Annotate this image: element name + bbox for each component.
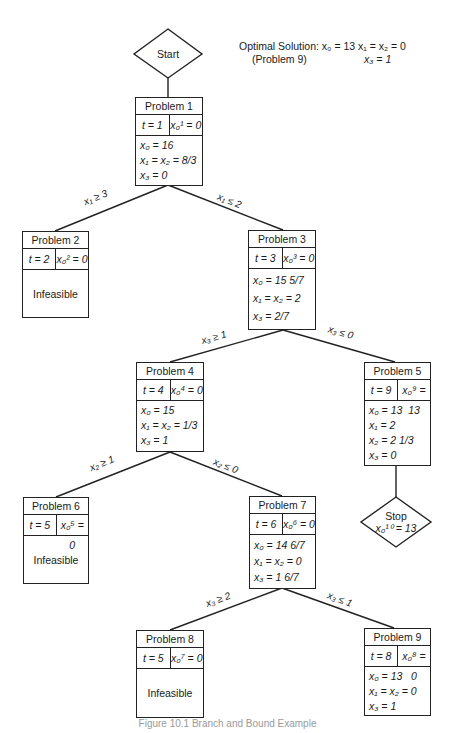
solution-line: x₃ = 2/7 xyxy=(253,307,311,325)
iteration: t = 6 xyxy=(250,514,283,534)
stop-value: x₀¹⁰ = 13 xyxy=(366,522,426,534)
iteration: t = 2 xyxy=(23,249,56,269)
problem-title: Problem 1 xyxy=(136,98,202,115)
start-label: Start xyxy=(138,48,198,60)
solution-line: x₀ = 13 xyxy=(369,669,426,684)
solution-line: x₀ = 16 xyxy=(140,138,198,153)
solution-line: x₃ = 0 xyxy=(369,448,426,463)
optimal-solution-x3: x₃ = 1 xyxy=(364,53,391,65)
bound: x₀² = 0 xyxy=(56,249,88,269)
problem-7-node: Problem 7 t = 6x₀⁶ = 0 x₀ = 14 6/7 x₁ = … xyxy=(249,496,316,589)
stop-label: Stop x₀¹⁰ = 13 xyxy=(366,510,426,534)
bound: x₀⁴ = 0 xyxy=(171,380,204,400)
solution-line: x₃ = 1 xyxy=(369,699,426,714)
infeasible-label: Infeasible xyxy=(23,270,88,300)
solution-line: x₂ = 2 1/3 xyxy=(369,433,426,448)
iteration: t = 4 xyxy=(137,380,171,400)
solution-line: x₀ = 15 xyxy=(141,403,199,418)
iteration: t = 8 xyxy=(365,646,398,666)
bound: x₀¹ = 0 xyxy=(170,115,203,135)
iteration: t = 9 xyxy=(365,380,398,400)
bound: x₀⁸ = 0 xyxy=(398,646,430,666)
problem-title: Problem 2 xyxy=(23,232,88,249)
bound: x₀⁷ = 0 xyxy=(171,648,204,668)
iteration: t = 5 xyxy=(24,515,57,535)
problem-3-node: Problem 3 t = 3x₀³ = 0 x₀ = 15 5/7 x₁ = … xyxy=(248,230,316,330)
solution-line: x₃ = 0 xyxy=(140,168,198,183)
solution-line: x₁ = x₂ = 8/3 xyxy=(140,153,198,168)
infeasible-label: Infeasible xyxy=(24,536,88,566)
solution-line: x₁ = x₂ = 2 xyxy=(253,289,311,307)
optimal-solution-line1: Optimal Solution: x₀ = 13 x₁ = x₂ = 0 xyxy=(239,40,406,52)
stop-title: Stop xyxy=(366,510,426,522)
iteration: t = 5 xyxy=(137,648,171,668)
problem-6-node: Problem 6 t = 5x₀⁵ = 0 Infeasible xyxy=(23,497,89,584)
figure-caption: Figure 10.1 Branch and Bound Example xyxy=(0,718,455,729)
problem-title: Problem 3 xyxy=(249,231,315,248)
solution-line: x₁ = x₂ = 0 xyxy=(369,684,426,699)
problem-2-node: Problem 2 t = 2x₀² = 0 Infeasible xyxy=(22,231,89,318)
problem-title: Problem 9 xyxy=(365,629,430,646)
problem-1-node: Problem 1 t = 1x₀¹ = 0 x₀ = 16 x₁ = x₂ =… xyxy=(135,97,203,186)
solution-line: x₃ = 1 6/7 xyxy=(254,569,311,585)
bound: x₀³ = 0 xyxy=(283,248,316,268)
optimal-solution-problem: (Problem 9) xyxy=(252,53,307,65)
problem-title: Problem 4 xyxy=(137,363,203,380)
bound: x₀⁶ = 0 xyxy=(283,514,315,534)
iteration: t = 3 xyxy=(249,248,283,268)
solution-line: x₃ = 1 xyxy=(141,433,199,448)
problem-4-node: Problem 4 t = 4x₀⁴ = 0 x₀ = 15 x₁ = x₂ =… xyxy=(136,362,204,452)
infeasible-label: Infeasible xyxy=(137,669,203,699)
problem-5-node: Problem 5 t = 9x₀⁹ = 13 x₀ = 13 x₁ = 2 x… xyxy=(364,362,431,466)
problem-9-node: Problem 9 t = 8x₀⁸ = 0 x₀ = 13 x₁ = x₂ =… xyxy=(364,628,431,716)
problem-title: Problem 6 xyxy=(24,498,88,515)
problem-title: Problem 5 xyxy=(365,363,430,380)
solution-line: x₁ = x₂ = 0 xyxy=(254,553,311,569)
solution-line: x₁ = 2 xyxy=(369,418,426,433)
problem-title: Problem 7 xyxy=(250,497,315,514)
solution-line: x₀ = 14 6/7 xyxy=(254,537,311,553)
problem-title: Problem 8 xyxy=(137,631,203,648)
problem-8-node: Problem 8 t = 5x₀⁷ = 0 Infeasible xyxy=(136,630,204,718)
bound: x₀⁹ = 13 xyxy=(398,380,430,400)
solution-line: x₁ = x₂ = 1/3 xyxy=(141,418,199,433)
bound: x₀⁵ = 0 xyxy=(57,515,89,535)
solution-line: x₀ = 15 5/7 xyxy=(253,271,311,289)
iteration: t = 1 xyxy=(136,115,170,135)
